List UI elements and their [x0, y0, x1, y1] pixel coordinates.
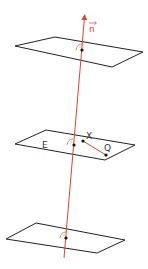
top-plane — [15, 37, 143, 67]
foot-point-bottom — [64, 236, 67, 239]
normal-line — [64, 17, 85, 258]
point-q-label: Q — [104, 143, 111, 153]
perpendicular-planes-diagram: n E X Q — [0, 0, 148, 269]
point-x-label: X — [86, 131, 92, 141]
plane-label-e: E — [42, 140, 48, 150]
right-angle-mark-middle — [67, 139, 73, 145]
segment-xq — [83, 141, 106, 155]
point-x — [81, 139, 84, 142]
point-q — [104, 153, 107, 156]
normal-vector-label: n — [89, 24, 95, 34]
foot-point-middle — [72, 143, 75, 146]
foot-point-top — [80, 48, 83, 51]
